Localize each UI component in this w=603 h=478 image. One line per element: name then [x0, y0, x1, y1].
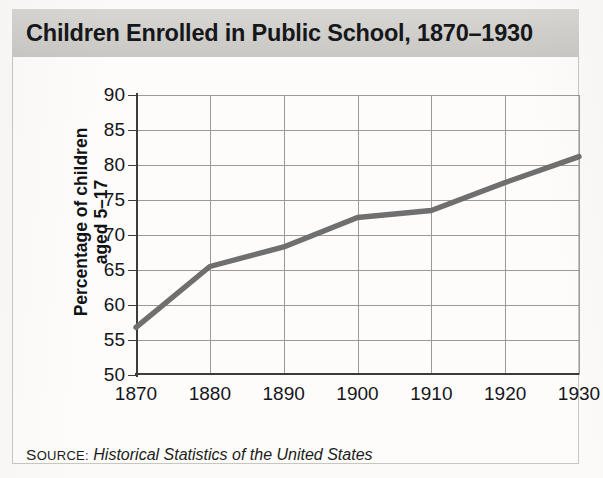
x-tick-label-1900: 1900 — [336, 383, 378, 405]
x-tick-label-1870: 1870 — [115, 383, 157, 405]
y-tick-mark-65 — [128, 270, 136, 271]
y-tick-label-75: 75 — [104, 189, 125, 211]
x-tick-label-1930: 1930 — [558, 383, 600, 405]
y-tick-label-90: 90 — [104, 84, 125, 106]
source-label-rest: OURCE: — [37, 448, 89, 463]
y-tick-label-60: 60 — [104, 294, 125, 316]
plot-area: 505560657075808590 187018801890190019101… — [136, 95, 579, 375]
y-tick-mark-75 — [128, 200, 136, 201]
x-tick-label-1910: 1910 — [410, 383, 452, 405]
y-tick-label-85: 85 — [104, 119, 125, 141]
data-line-series — [136, 95, 579, 375]
y-tick-label-80: 80 — [104, 154, 125, 176]
x-tick-label-1920: 1920 — [484, 383, 526, 405]
y-tick-mark-80 — [128, 165, 136, 166]
title-banner: Children Enrolled in Public School, 1870… — [12, 9, 579, 57]
source-text: Historical Statistics of the United Stat… — [93, 446, 372, 463]
chart-title: Children Enrolled in Public School, 1870… — [26, 20, 533, 47]
y-tick-mark-50 — [128, 375, 136, 376]
y-tick-mark-85 — [128, 130, 136, 131]
y-tick-mark-70 — [128, 235, 136, 236]
gridline-x-1930 — [579, 95, 580, 375]
y-tick-label-70: 70 — [104, 224, 125, 246]
y-tick-label-55: 55 — [104, 329, 125, 351]
plot-area-wrapper: Percentage of children aged 5–17 5055606… — [12, 57, 579, 464]
source-label: SOURCE: — [26, 448, 89, 463]
source-label-capital: S — [26, 446, 37, 463]
enrollment-line — [136, 157, 579, 328]
figure-container: Children Enrolled in Public School, 1870… — [0, 0, 603, 478]
source-note: SOURCE: Historical Statistics of the Uni… — [26, 446, 373, 464]
y-tick-mark-60 — [128, 305, 136, 306]
x-tick-label-1880: 1880 — [189, 383, 231, 405]
x-tick-label-1890: 1890 — [263, 383, 305, 405]
y-tick-label-65: 65 — [104, 259, 125, 281]
y-tick-mark-55 — [128, 340, 136, 341]
y-tick-mark-90 — [128, 95, 136, 96]
y-axis-label-line1: Percentage of children — [72, 128, 92, 317]
